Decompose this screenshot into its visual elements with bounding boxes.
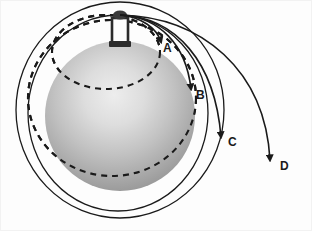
tower-base xyxy=(109,41,131,47)
tower-body xyxy=(112,18,128,44)
trajectory-C-label: C xyxy=(228,135,237,149)
trajectory-A-label: A xyxy=(163,41,172,55)
trajectory-B-label: B xyxy=(196,88,205,102)
newton-cannonball-figure: A B C D xyxy=(0,0,312,231)
figure-canvas: A B C D xyxy=(0,0,312,231)
earth-sphere xyxy=(45,41,195,191)
trajectory-D-label: D xyxy=(280,159,289,173)
